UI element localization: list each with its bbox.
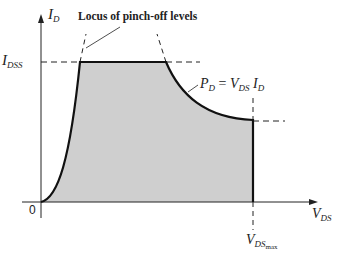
vdsmax-subsub: max xyxy=(266,243,278,251)
power-v: V xyxy=(230,76,239,91)
locus-dashed-right xyxy=(157,34,166,62)
origin-label: 0 xyxy=(29,203,36,217)
y-axis-label: ID xyxy=(48,6,60,24)
locus-dashed-left xyxy=(80,34,86,62)
y-axis-arrow-icon xyxy=(38,14,44,23)
idss-sub: DSS xyxy=(7,60,23,70)
power-v-sub: DS xyxy=(239,83,250,93)
power-eq: = xyxy=(219,76,227,91)
x-axis-label: VDS xyxy=(312,206,332,223)
x-label-main: V xyxy=(312,206,321,221)
power-i-sub: D xyxy=(258,83,265,93)
y-label-sub: D xyxy=(53,14,60,24)
power-p: P xyxy=(200,76,209,91)
vdsmax-sub: DS xyxy=(255,239,266,249)
power-p-sub: D xyxy=(209,83,216,93)
power-leader-line xyxy=(188,85,198,92)
power-equation-label: PD = VDS ID xyxy=(200,76,264,93)
diagram-canvas xyxy=(0,0,345,260)
idss-label: IDSS xyxy=(2,52,23,70)
locus-leader-line xyxy=(86,27,120,48)
vdsmax-label: VDSmax xyxy=(246,232,278,251)
x-label-sub: DS xyxy=(321,213,332,223)
locus-label: Locus of pinch-off levels xyxy=(78,10,197,22)
x-axis-arrow-icon xyxy=(309,199,318,205)
vdsmax-main: V xyxy=(246,232,255,247)
